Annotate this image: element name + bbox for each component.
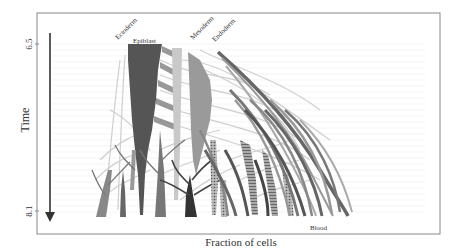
lineage-flow-chart: Ectoderm Epiblast Mesoderm Endoderm Bloo… xyxy=(0,0,462,252)
label-epiblast: Epiblast xyxy=(133,37,156,45)
y-axis-label: Time xyxy=(18,108,32,133)
plot-frame xyxy=(37,13,440,234)
label-blood: Blood xyxy=(310,224,328,232)
x-axis-label: Fraction of cells xyxy=(205,236,276,248)
y-tick-label-top: 6.5 xyxy=(24,38,34,50)
y-tick-label-bottom: 8.1 xyxy=(24,205,34,216)
